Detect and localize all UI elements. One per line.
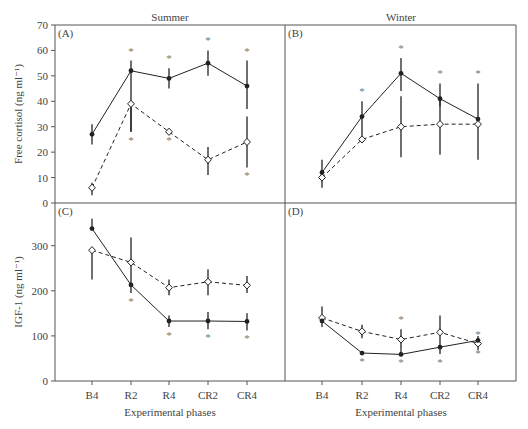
x-tick-label: R2: [356, 389, 369, 401]
significance-asterisk: *: [244, 45, 250, 57]
filled-circle-marker: [90, 132, 95, 137]
significance-asterisk: *: [166, 52, 172, 64]
y-tick-label: 50: [37, 70, 49, 82]
filled-circle-marker: [167, 319, 172, 324]
open-diamond-marker: [166, 284, 173, 291]
y-tick-label: 100: [32, 330, 49, 342]
significance-asterisk: *: [128, 45, 134, 57]
x-tick-label: CR2: [430, 389, 450, 401]
significance-asterisk: *: [128, 134, 134, 146]
y-tick-label: 70: [37, 19, 49, 31]
x-axis-label-left: Experimental phases: [124, 406, 215, 418]
x-tick-label: B4: [316, 389, 329, 401]
open-diamond-marker: [128, 259, 135, 266]
y-axis-label-igf1: IGF-1 (ng ml⁻¹): [12, 256, 25, 328]
series-line-open: [322, 124, 478, 177]
open-diamond-marker: [244, 282, 251, 289]
open-diamond-marker: [437, 121, 444, 128]
significance-asterisk: *: [398, 356, 404, 368]
y-tick-label: 10: [37, 172, 49, 184]
series-line-filled: [322, 73, 478, 172]
x-tick-label: CR4: [468, 389, 489, 401]
significance-asterisk: *: [205, 34, 211, 46]
figure-chart: Summer Winter (A) (B) (C) (D) Free corti…: [0, 0, 528, 429]
filled-circle-marker: [438, 345, 443, 350]
x-tick-label: CR2: [198, 389, 218, 401]
open-diamond-marker: [89, 184, 96, 191]
filled-circle-marker: [320, 319, 325, 324]
open-diamond-marker: [398, 123, 405, 130]
significance-asterisk: *: [166, 329, 172, 341]
y-tick-label: 30: [37, 121, 49, 133]
significance-asterisk: *: [475, 347, 481, 359]
x-tick-label: B4: [86, 389, 99, 401]
open-diamond-marker: [475, 121, 482, 128]
filled-circle-marker: [360, 114, 365, 119]
significance-asterisk: *: [359, 355, 365, 367]
panel-label-a: (A): [58, 27, 74, 40]
filled-circle-marker: [476, 338, 481, 343]
y-tick-label: 0: [43, 375, 49, 387]
panel-a: *******: [89, 34, 251, 195]
y-tick-label: 300: [32, 240, 49, 252]
filled-circle-marker: [399, 71, 404, 76]
axis-ticks: 0102030405060700100200300B4R2R4CR2CR4B4R…: [32, 19, 489, 401]
panel-c: ****: [89, 219, 251, 345]
open-diamond-marker: [128, 100, 135, 107]
column-title-summer: Summer: [151, 11, 189, 23]
filled-circle-marker: [476, 117, 481, 122]
significance-asterisk: *: [437, 356, 443, 368]
filled-circle-marker: [245, 84, 250, 89]
filled-circle-marker: [320, 170, 325, 175]
filled-circle-marker: [167, 76, 172, 81]
filled-circle-marker: [90, 226, 95, 231]
column-title-winter: Winter: [386, 11, 416, 23]
filled-circle-marker: [360, 351, 365, 356]
x-tick-label: R2: [125, 389, 138, 401]
significance-asterisk: *: [437, 67, 443, 79]
x-axis-label-right: Experimental phases: [355, 406, 446, 418]
significance-asterisk: *: [244, 169, 250, 181]
x-tick-label: R4: [395, 389, 408, 401]
filled-circle-marker: [245, 319, 250, 324]
panel-b: ****: [319, 42, 482, 188]
significance-asterisk: *: [244, 332, 250, 344]
x-tick-label: CR4: [237, 389, 258, 401]
series-line-filled: [92, 229, 247, 322]
panel-label-c: (C): [58, 205, 73, 218]
panel-d: ******: [319, 307, 482, 369]
y-tick-label: 40: [37, 95, 49, 107]
filled-circle-marker: [206, 319, 211, 324]
filled-circle-marker: [399, 352, 404, 357]
open-diamond-marker: [359, 328, 366, 335]
open-diamond-marker: [89, 247, 96, 254]
significance-asterisk: *: [205, 331, 211, 343]
significance-asterisk: *: [398, 42, 404, 54]
open-diamond-marker: [244, 138, 251, 145]
x-tick-label: R4: [163, 389, 176, 401]
significance-asterisk: *: [359, 85, 365, 97]
y-tick-label: 20: [37, 146, 49, 158]
open-diamond-marker: [437, 329, 444, 336]
filled-circle-marker: [129, 68, 134, 73]
y-axis-label-cortisol: Free cortisol (ng ml⁻¹): [12, 64, 25, 164]
open-diamond-marker: [398, 336, 405, 343]
panel-label-b: (B): [288, 27, 303, 40]
significance-asterisk: *: [475, 67, 481, 79]
filled-circle-marker: [206, 61, 211, 66]
significance-asterisk: *: [398, 313, 404, 325]
open-diamond-marker: [205, 278, 212, 285]
significance-asterisk: *: [128, 295, 134, 307]
y-tick-label: 60: [37, 44, 49, 56]
frame: [55, 25, 516, 381]
filled-circle-marker: [129, 283, 134, 288]
panel-label-d: (D): [288, 205, 304, 218]
filled-circle-marker: [438, 96, 443, 101]
open-diamond-marker: [205, 156, 212, 163]
y-tick-label: 0: [43, 197, 49, 209]
y-tick-label: 200: [32, 285, 49, 297]
